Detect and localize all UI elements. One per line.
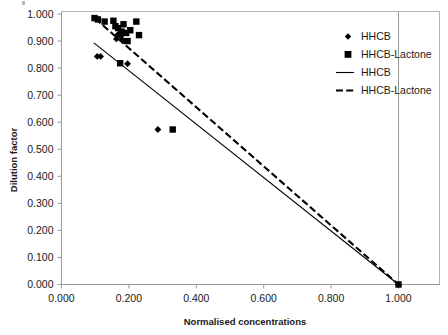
legend-label-1: HHCB-Lactone bbox=[361, 48, 432, 60]
data-point-square bbox=[101, 18, 107, 24]
y-tick-label: 0.700 bbox=[27, 89, 53, 101]
data-point-square bbox=[124, 38, 130, 44]
data-point-square bbox=[133, 18, 139, 24]
data-point-square bbox=[170, 126, 176, 132]
data-point-square bbox=[395, 281, 401, 287]
y-axis-title: Dilution factor bbox=[8, 128, 19, 193]
legend-label-0: HHCB bbox=[361, 30, 391, 42]
data-point-square bbox=[117, 60, 123, 66]
x-tick-label: 0.800 bbox=[318, 292, 344, 304]
y-tick-label: 1.000 bbox=[27, 8, 53, 20]
data-point-square bbox=[136, 32, 142, 38]
legend-label-2: HHCB bbox=[361, 66, 391, 78]
y-tick-label: 0.600 bbox=[27, 116, 53, 128]
data-point-square bbox=[127, 27, 133, 33]
x-tick-label: 0.000 bbox=[48, 292, 74, 304]
y-tick-label: 0.200 bbox=[27, 224, 53, 236]
y-tick-label: 0.900 bbox=[27, 35, 53, 47]
y-tick-label: 0.400 bbox=[27, 170, 53, 182]
y-tick-label: 0.000 bbox=[27, 278, 53, 290]
scatter-chart: 0.0000.1000.2000.3000.4000.5000.6000.700… bbox=[0, 0, 448, 335]
y-tick-label: 0.300 bbox=[27, 197, 53, 209]
x-tick-label: 1.000 bbox=[385, 292, 411, 304]
x-tick-label: 0.200 bbox=[116, 292, 142, 304]
data-point-square bbox=[95, 16, 101, 22]
scan-artifact bbox=[22, 1, 25, 5]
y-tick-label: 0.500 bbox=[27, 143, 53, 155]
data-point-square bbox=[120, 21, 126, 27]
y-tick-label: 0.100 bbox=[27, 251, 53, 263]
y-tick-label: 0.800 bbox=[27, 62, 53, 74]
chart-container: 0.0000.1000.2000.3000.4000.5000.6000.700… bbox=[0, 0, 448, 335]
legend-label-3: HHCB-Lactone bbox=[361, 84, 432, 96]
x-tick-label: 0.400 bbox=[183, 292, 209, 304]
x-axis-title: Normalised concentrations bbox=[184, 316, 306, 327]
legend-marker-square bbox=[345, 51, 352, 58]
x-tick-label: 0.600 bbox=[251, 292, 277, 304]
